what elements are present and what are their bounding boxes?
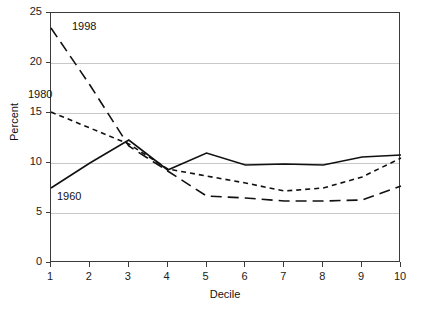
series-line-1960 bbox=[51, 140, 401, 188]
y-tick-label-5: 5 bbox=[8, 206, 42, 217]
series-line-1998 bbox=[51, 28, 401, 201]
x-tick-mark-5 bbox=[206, 262, 207, 267]
x-tick-label-5: 5 bbox=[191, 270, 221, 282]
x-tick-label-1: 1 bbox=[35, 270, 65, 282]
x-tick-mark-2 bbox=[89, 262, 90, 267]
series-label-1980: 1980 bbox=[28, 88, 52, 100]
chart-title-remnant bbox=[92, 0, 252, 3]
series-label-1998: 1998 bbox=[72, 20, 96, 32]
x-tick-mark-9 bbox=[361, 262, 362, 267]
x-tick-mark-6 bbox=[244, 262, 245, 267]
y-tick-label-20: 20 bbox=[8, 56, 42, 67]
plot-area bbox=[50, 12, 400, 262]
x-tick-mark-4 bbox=[167, 262, 168, 267]
chart-container: 0510152025 Percent 12345678910 Decile 19… bbox=[0, 0, 425, 315]
y-tick-label-25: 25 bbox=[8, 6, 42, 17]
x-tick-mark-3 bbox=[128, 262, 129, 267]
y-tick-label-0: 0 bbox=[8, 256, 42, 267]
x-tick-label-8: 8 bbox=[307, 270, 337, 282]
series-lines bbox=[51, 13, 401, 263]
x-tick-label-4: 4 bbox=[152, 270, 182, 282]
y-axis-title: Percent bbox=[8, 92, 20, 152]
x-tick-mark-7 bbox=[283, 262, 284, 267]
x-tick-mark-10 bbox=[400, 262, 401, 267]
x-tick-label-10: 10 bbox=[385, 270, 415, 282]
x-tick-label-3: 3 bbox=[113, 270, 143, 282]
series-label-1960: 1960 bbox=[57, 190, 81, 202]
x-tick-label-2: 2 bbox=[74, 270, 104, 282]
x-tick-mark-8 bbox=[322, 262, 323, 267]
x-tick-label-7: 7 bbox=[268, 270, 298, 282]
x-tick-label-9: 9 bbox=[346, 270, 376, 282]
x-tick-label-6: 6 bbox=[229, 270, 259, 282]
x-axis-title: Decile bbox=[50, 288, 400, 300]
x-tick-mark-1 bbox=[50, 262, 51, 267]
y-tick-label-10: 10 bbox=[8, 156, 42, 167]
series-line-1980 bbox=[51, 112, 401, 191]
